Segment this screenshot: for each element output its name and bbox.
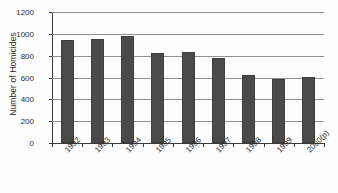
y-tick-label: 0 xyxy=(0,139,34,148)
x-tick-mark xyxy=(112,143,113,147)
x-tick-mark xyxy=(52,143,53,147)
bar-chart-figure: Number of Homicides 02004006008001000120… xyxy=(0,0,338,193)
bar-1993 xyxy=(91,39,104,143)
x-tick-mark xyxy=(82,143,83,147)
y-tick-label: 400 xyxy=(0,95,34,104)
bars-layer xyxy=(52,12,324,143)
x-tick-mark xyxy=(324,143,325,147)
bar-1997 xyxy=(212,58,225,143)
x-tick-mark xyxy=(294,143,295,147)
x-tick-mark xyxy=(264,143,265,147)
x-tick-mark xyxy=(233,143,234,147)
y-tick-label: 600 xyxy=(0,73,34,82)
plot-area: 020040060080010001200 xyxy=(52,12,324,143)
bar-1995 xyxy=(151,53,164,143)
bar-1998 xyxy=(242,75,255,143)
x-tick-mark xyxy=(173,143,174,147)
y-tick-label: 800 xyxy=(0,51,34,60)
x-tick-mark xyxy=(203,143,204,147)
y-tick-label: 1000 xyxy=(0,29,34,38)
y-tick-label: 1200 xyxy=(0,8,34,17)
x-tick-mark xyxy=(143,143,144,147)
y-tick-label: 200 xyxy=(0,117,34,126)
bar-1994 xyxy=(121,36,134,143)
x-axis-labels: 199219931994199519961997199819992000(p) xyxy=(52,148,324,188)
bar-1992 xyxy=(61,40,74,143)
bar-1999 xyxy=(272,79,285,143)
bar-2000(p) xyxy=(302,77,315,143)
bar-1996 xyxy=(182,52,195,143)
